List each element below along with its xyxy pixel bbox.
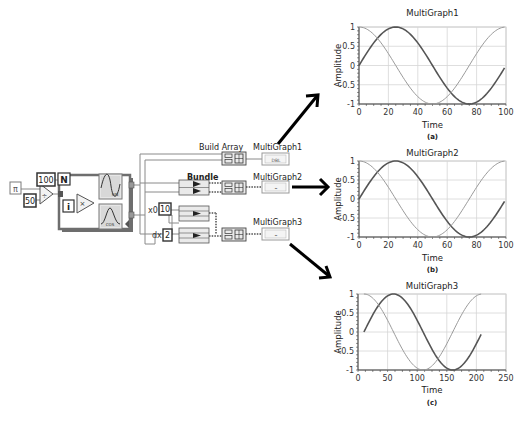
multigraph1-label: MultiGraph1 bbox=[253, 143, 302, 152]
y-tick-label: 0.5 bbox=[342, 42, 355, 51]
dx-label: dx bbox=[152, 231, 162, 240]
x-tick-label: 0 bbox=[356, 108, 361, 117]
dx-constant[interactable]: 2 bbox=[163, 229, 172, 241]
build-array-node-1[interactable] bbox=[222, 152, 246, 165]
svg-text:2: 2 bbox=[165, 231, 170, 240]
x-tick-label: 40 bbox=[413, 241, 423, 250]
x-tick-label: 0 bbox=[355, 374, 360, 383]
y-tick-label: -1 bbox=[347, 233, 355, 242]
y-tick-label: 0 bbox=[350, 195, 355, 204]
divisor-constant[interactable]: 50 bbox=[24, 194, 36, 207]
x-tick-label: 250 bbox=[498, 374, 513, 383]
y-axis-label: Amplitude bbox=[333, 44, 343, 88]
y-axis-label: Amplitude bbox=[333, 177, 343, 221]
arrow-to-graph3-icon bbox=[290, 244, 330, 278]
multigraph1-chart: 10.50-0.5-1020406080100MultiGraph1TimeAm… bbox=[333, 8, 514, 141]
x-tick-label: 50 bbox=[383, 374, 393, 383]
svg-text:SIN: SIN bbox=[112, 192, 119, 197]
x-axis-label: Time bbox=[421, 385, 443, 395]
y-tick-label: -1 bbox=[347, 100, 355, 109]
x-tick-label: 60 bbox=[442, 241, 452, 250]
svg-text:÷: ÷ bbox=[42, 192, 48, 200]
build-array-label: Build Array bbox=[199, 143, 243, 152]
x-tick-label: 80 bbox=[472, 241, 482, 250]
y-tick-label: 0.5 bbox=[342, 176, 355, 185]
y-tick-label: 1 bbox=[350, 23, 355, 32]
multigraph1-terminal[interactable]: DBL bbox=[262, 153, 289, 165]
y-tick-label: -1 bbox=[346, 366, 354, 375]
cosine-node[interactable]: COS bbox=[99, 204, 122, 229]
y-axis-label: Amplitude bbox=[333, 310, 343, 354]
arrow-to-graph1-icon bbox=[278, 95, 318, 144]
x-tick-label: 60 bbox=[442, 108, 452, 117]
divide-node[interactable]: ÷ bbox=[40, 184, 53, 204]
svg-text:50: 50 bbox=[25, 197, 35, 206]
pi-constant[interactable]: π bbox=[10, 182, 21, 194]
x-tick-label: 200 bbox=[469, 374, 484, 383]
x0-label: x0 bbox=[148, 206, 158, 215]
sine-node[interactable]: SIN bbox=[99, 174, 122, 199]
y-tick-label: 0 bbox=[350, 62, 355, 71]
svg-text:DBL: DBL bbox=[271, 158, 281, 163]
chart-title: MultiGraph1 bbox=[406, 8, 458, 18]
labview-diagram: π 50 ÷ 100 N i × SIN COS bbox=[0, 0, 522, 421]
x-tick-label: 0 bbox=[356, 241, 361, 250]
y-tick-label: 1 bbox=[350, 157, 355, 166]
multigraph2-chart: 10.50-0.5-1020406080100MultiGraph2TimeAm… bbox=[333, 148, 514, 274]
loop-count-constant[interactable]: 100 bbox=[37, 173, 55, 186]
chart-title: MultiGraph2 bbox=[406, 148, 458, 158]
multigraph3-chart: 10.50-0.5-1050100150200250MultiGraph3Tim… bbox=[333, 281, 514, 407]
y-tick-label: 0.5 bbox=[341, 309, 354, 318]
loop-iteration-terminal: i bbox=[63, 200, 74, 212]
figure-caption: (c) bbox=[427, 399, 438, 407]
input-tunnel bbox=[58, 191, 63, 197]
bundle-node-1[interactable] bbox=[179, 180, 209, 195]
x-tick-label: 80 bbox=[472, 108, 482, 117]
bundle-node-3[interactable] bbox=[179, 228, 209, 243]
x-axis-label: Time bbox=[421, 120, 443, 130]
x-tick-label: 40 bbox=[413, 108, 423, 117]
svg-text:N: N bbox=[60, 175, 68, 185]
y-tick-label: 0 bbox=[349, 328, 354, 337]
figure-caption: (b) bbox=[427, 266, 438, 274]
bundle-node-2[interactable] bbox=[179, 206, 209, 221]
build-array-node-2[interactable] bbox=[222, 181, 246, 194]
svg-text:⌁: ⌁ bbox=[274, 185, 277, 191]
cos-output-tunnel bbox=[129, 212, 134, 218]
sin-output-tunnel bbox=[129, 182, 134, 188]
svg-text:⌁: ⌁ bbox=[274, 232, 277, 238]
svg-text:COS: COS bbox=[106, 222, 115, 227]
chart-title: MultiGraph3 bbox=[406, 281, 458, 291]
x-axis-label: Time bbox=[421, 253, 443, 263]
x-tick-label: 100 bbox=[498, 108, 513, 117]
x-tick-label: 100 bbox=[498, 241, 513, 250]
multigraph3-label: MultiGraph3 bbox=[253, 218, 302, 227]
multigraph3-terminal[interactable]: ⌁ bbox=[262, 228, 289, 240]
svg-text:π: π bbox=[13, 185, 18, 194]
svg-text:10: 10 bbox=[160, 205, 170, 214]
figure-caption: (a) bbox=[427, 133, 438, 141]
x-tick-label: 20 bbox=[383, 241, 393, 250]
x-tick-label: 150 bbox=[439, 374, 454, 383]
y-tick-label: 1 bbox=[349, 290, 354, 299]
svg-text:100: 100 bbox=[38, 176, 53, 185]
multigraph2-terminal[interactable]: ⌁ bbox=[262, 181, 289, 193]
svg-text:×: × bbox=[80, 200, 86, 208]
x0-constant[interactable]: 10 bbox=[159, 203, 171, 215]
loop-count-terminal: N bbox=[58, 173, 70, 185]
svg-text:i: i bbox=[67, 202, 70, 212]
x-tick-label: 100 bbox=[410, 374, 425, 383]
x-tick-label: 20 bbox=[383, 108, 393, 117]
build-array-node-3[interactable] bbox=[222, 228, 246, 241]
